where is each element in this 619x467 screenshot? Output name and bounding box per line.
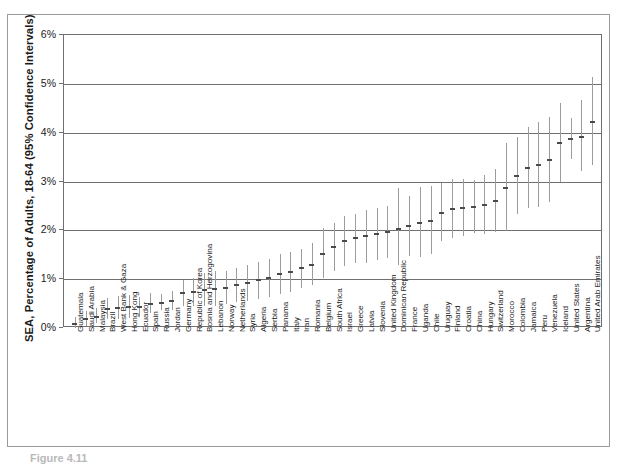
y-tick-label: 0% — [16, 321, 56, 333]
y-tick-label: 4% — [16, 126, 56, 138]
x-axis-label: Republic of Korea — [196, 268, 204, 332]
data-point-marker — [536, 164, 541, 166]
data-point-marker — [169, 300, 174, 302]
x-axis-label: France — [411, 307, 419, 332]
x-axis-label: Syria — [249, 314, 257, 332]
x-axis-label: United Kingdom — [390, 274, 398, 332]
x-axis-label: Germany — [185, 299, 193, 332]
y-tick-label: 1% — [16, 272, 56, 284]
data-point-marker — [547, 159, 552, 161]
data-point-marker — [256, 279, 261, 281]
data-point-marker — [460, 207, 465, 209]
x-axis-label: Peru — [541, 315, 549, 332]
data-point-marker — [579, 136, 584, 138]
x-axis-label: United States — [573, 283, 581, 332]
y-tick-label: 6% — [16, 28, 56, 40]
data-point-marker — [514, 175, 519, 177]
data-point-marker — [309, 264, 314, 266]
data-point-marker — [363, 235, 368, 237]
gridline — [64, 279, 601, 280]
data-point-marker — [331, 246, 336, 248]
x-axis-label: United Arab Emirates — [594, 256, 602, 332]
gridline — [64, 230, 601, 231]
gridline — [64, 182, 601, 183]
x-axis-label: Brazil — [109, 312, 117, 332]
x-axis-label: Latvia — [368, 310, 376, 332]
y-tick-mark — [59, 327, 63, 328]
x-axis-label: Hungary — [487, 301, 495, 332]
plot-area — [63, 34, 602, 327]
x-axis-label: Iceland — [562, 306, 570, 332]
x-axis-label: Israel — [346, 312, 354, 332]
x-axis-label: Belgium — [325, 303, 333, 332]
x-axis-label: Norway — [228, 305, 236, 332]
x-axis-label: Venezuela — [551, 294, 559, 332]
data-point-marker — [439, 212, 444, 214]
x-axis-label: Croatia — [465, 306, 473, 332]
data-point-marker — [471, 206, 476, 208]
x-axis-label: Chile — [433, 314, 441, 332]
y-tick-label: 5% — [16, 77, 56, 89]
x-axis-label: Hong Kong — [131, 291, 139, 332]
data-point-marker — [353, 237, 358, 239]
x-axis-category-labels: GuatemalaSaudi ArabiaMalaysiaBrazilWest … — [63, 330, 602, 440]
x-axis-label: Lebanon — [217, 300, 225, 332]
data-point-marker — [557, 142, 562, 144]
data-point-marker — [525, 167, 530, 169]
x-axis-label: Iran — [303, 318, 311, 332]
data-point-marker — [428, 220, 433, 222]
x-axis-label: Spain — [152, 311, 160, 332]
data-point-marker — [234, 284, 239, 286]
x-axis-label: Uruguay — [444, 301, 452, 332]
data-point-marker — [288, 271, 293, 273]
x-axis-label: Serbia — [271, 309, 279, 332]
data-point-marker — [493, 200, 498, 202]
data-point-marker — [299, 267, 304, 269]
x-axis-label: Ecuador — [142, 302, 150, 332]
data-point-marker — [503, 187, 508, 189]
data-point-marker — [320, 253, 325, 255]
x-axis-label: Argentina — [584, 297, 592, 332]
data-point-marker — [568, 138, 573, 140]
data-point-marker — [223, 287, 228, 289]
y-tick-label: 3% — [16, 175, 56, 187]
data-point-marker — [417, 222, 422, 224]
data-point-marker — [266, 277, 271, 279]
x-axis-label: Romania — [314, 300, 322, 332]
data-point-marker — [406, 225, 411, 227]
x-axis-label: Guatemala — [77, 292, 85, 332]
data-point-marker — [396, 228, 401, 230]
x-axis-label: Dominican Republic — [400, 260, 408, 332]
x-axis-label: Malaysia — [99, 300, 107, 332]
figure-caption: Figure 4.11 — [30, 452, 87, 464]
y-tick-label: 2% — [16, 223, 56, 235]
x-axis-label: Greece — [357, 305, 365, 332]
x-axis-label: Slovenia — [379, 301, 387, 332]
data-point-marker — [385, 231, 390, 233]
x-axis-label: China — [476, 311, 484, 332]
x-axis-label: Russia — [163, 307, 171, 332]
gridline — [64, 84, 601, 85]
x-axis-label: Jordan — [174, 307, 182, 332]
data-point-marker — [277, 273, 282, 275]
x-axis-label: Morocco — [508, 301, 516, 332]
x-axis-label: Jamaica — [530, 302, 538, 332]
data-point-marker — [450, 208, 455, 210]
x-axis-label: Saudi Arabia — [88, 286, 96, 332]
gridline — [64, 133, 601, 134]
x-axis-label: Panama — [282, 302, 290, 332]
x-axis-label: Switzerland — [497, 290, 505, 332]
data-point-marker — [482, 204, 487, 206]
x-axis-label: Bosnia and Herzogovina — [206, 244, 214, 332]
x-axis-label: Netherlands — [239, 288, 247, 332]
data-point-marker — [342, 240, 347, 242]
data-point-marker — [180, 292, 185, 294]
data-point-marker — [374, 233, 379, 235]
data-point-marker — [159, 302, 164, 304]
x-axis-label: Algeria — [260, 307, 268, 332]
confidence-interval-bar — [398, 188, 399, 264]
figure-root: SEA, Percentage of Adults, 18-64 (95% Co… — [0, 0, 619, 467]
x-axis-label: South Africa — [336, 288, 344, 332]
x-axis-label: Uganda — [422, 304, 430, 332]
x-axis-label: West Bank & Gaza — [120, 264, 128, 332]
